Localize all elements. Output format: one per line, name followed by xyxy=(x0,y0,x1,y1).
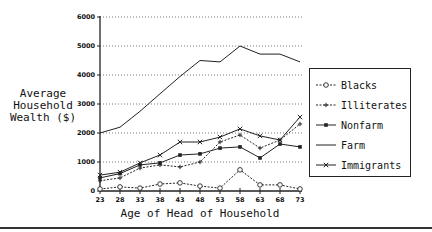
data-point-blacks xyxy=(298,187,303,192)
x-tick-label: 28 xyxy=(115,196,125,204)
legend-label: Farm xyxy=(341,140,365,151)
legend-swatch-immigrants xyxy=(314,160,338,170)
legend-swatch-blacks xyxy=(314,80,338,90)
y-tick-label: 1000 xyxy=(77,158,96,166)
legend-swatch-farm xyxy=(314,140,338,150)
x-tick-label: 73 xyxy=(295,196,304,204)
data-point-nonfarm xyxy=(238,145,242,149)
data-point-illiterates xyxy=(118,176,122,180)
data-point-blacks xyxy=(158,182,163,187)
legend: BlacksIlliteratesNonfarmFarmImmigrants xyxy=(309,68,411,177)
x-tick-label: 68 xyxy=(275,196,285,204)
legend-label: Illiterates xyxy=(341,100,407,111)
legend-marker xyxy=(324,123,328,127)
x-tick-label: 43 xyxy=(175,196,184,204)
data-point-blacks xyxy=(138,186,143,191)
data-point-nonfarm xyxy=(278,142,282,146)
data-point-nonfarm xyxy=(258,156,262,160)
x-tick-label: 48 xyxy=(195,196,205,204)
legend-swatch-nonfarm xyxy=(314,120,338,130)
y-tick-label: 6000 xyxy=(77,13,96,21)
legend-item-blacks: Blacks xyxy=(310,78,377,92)
data-point-illiterates xyxy=(258,146,262,150)
series-blacks xyxy=(98,168,303,192)
series-farm xyxy=(100,46,300,133)
data-point-blacks xyxy=(198,184,203,189)
x-tick-label: 38 xyxy=(155,196,165,204)
y-tick-label: 4000 xyxy=(77,71,96,79)
y-tick-label: 2000 xyxy=(77,129,96,137)
legend-item-nonfarm: Nonfarm xyxy=(310,118,383,132)
divider-rule xyxy=(0,227,432,229)
axes xyxy=(97,16,302,194)
x-tick-label: 58 xyxy=(235,196,245,204)
y-tick-label: 5000 xyxy=(77,42,96,50)
x-tick-label: 33 xyxy=(135,196,144,204)
data-point-immigrants xyxy=(158,153,162,157)
data-point-blacks xyxy=(98,187,103,192)
legend-marker xyxy=(324,103,328,107)
data-point-nonfarm xyxy=(158,161,162,165)
series-line-farm xyxy=(100,46,300,133)
y-axis-label: Average Household Wealth ($) xyxy=(0,88,86,124)
x-tick-labels: 2328333843485358636873 xyxy=(95,196,304,204)
x-tick-label: 53 xyxy=(215,196,224,204)
legend-item-illiterates: Illiterates xyxy=(310,98,407,112)
data-point-blacks xyxy=(278,183,283,188)
data-point-blacks xyxy=(238,168,243,173)
legend-item-farm: Farm xyxy=(310,138,365,152)
x-axis-label: Age of Head of Household xyxy=(100,207,300,220)
data-point-blacks xyxy=(178,181,183,186)
legend-item-immigrants: Immigrants xyxy=(310,158,401,172)
data-point-blacks xyxy=(258,183,263,188)
data-point-immigrants xyxy=(298,115,302,119)
x-tick-label: 23 xyxy=(95,196,104,204)
series-line-immigrants xyxy=(100,117,300,175)
legend-label: Blacks xyxy=(341,80,377,91)
legend-marker xyxy=(324,83,329,88)
y-tick-label: 0 xyxy=(90,187,95,195)
data-point-blacks xyxy=(118,185,123,190)
data-point-blacks xyxy=(218,186,223,191)
legend-swatch-illiterates xyxy=(314,100,338,110)
data-point-nonfarm xyxy=(298,145,302,149)
y-axis-label-line-3: Wealth ($) xyxy=(0,112,86,124)
data-point-nonfarm xyxy=(198,152,202,156)
data-point-nonfarm xyxy=(178,153,182,157)
data-point-nonfarm xyxy=(218,146,222,150)
x-tick-label: 63 xyxy=(255,196,264,204)
legend-label: Immigrants xyxy=(341,160,401,171)
series-immigrants xyxy=(98,115,302,177)
series-lines xyxy=(98,46,303,191)
data-point-illiterates xyxy=(178,165,182,169)
legend-label: Nonfarm xyxy=(341,120,383,131)
